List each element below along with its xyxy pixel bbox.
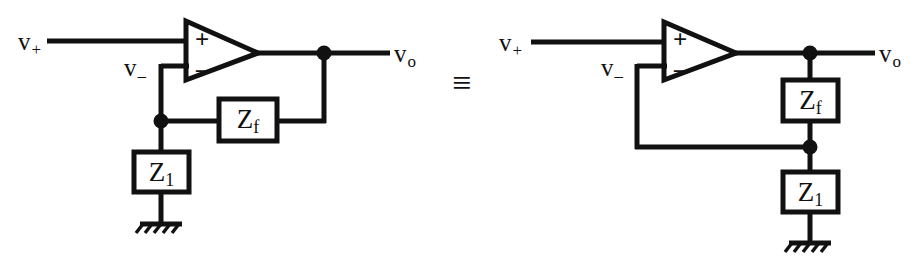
- right-z1-subscript: 1: [814, 190, 823, 210]
- left-output-label: vo: [394, 41, 415, 66]
- right-inverting-input-label: v–: [601, 55, 622, 80]
- left-zf-subscript: f: [253, 117, 259, 137]
- right-minus-glyph: –: [674, 55, 687, 82]
- right-vminus-symbol: v: [601, 54, 614, 81]
- right-ground-symbol: [785, 243, 831, 252]
- circuit-figure: v+ v– vo + – Zf Z1 ≡ v+ v– vo + – Zf Z1: [0, 0, 924, 266]
- left-noninverting-input-label: v+: [18, 29, 40, 54]
- right-z1-label: Z1: [783, 179, 838, 206]
- right-vminus-subscript: –: [615, 66, 624, 85]
- left-ground-symbol: [136, 224, 182, 233]
- right-z1-symbol: Z: [798, 177, 815, 207]
- right-circuit-group: [531, 22, 875, 252]
- left-z1-subscript: 1: [165, 170, 174, 190]
- right-noninverting-input-label: v+: [499, 30, 521, 55]
- right-vplus-subscript: +: [513, 41, 523, 60]
- left-opamp-minus-pin-label: –: [196, 56, 209, 81]
- left-vplus-subscript: +: [32, 40, 42, 59]
- left-output-node-dot: [317, 46, 332, 61]
- left-vminus-symbol: v: [124, 54, 137, 81]
- right-zf-subscript: f: [816, 98, 822, 118]
- right-vo-subscript: o: [893, 52, 902, 71]
- right-opamp-minus-pin-label: –: [674, 56, 687, 81]
- left-vplus-symbol: v: [18, 28, 31, 55]
- right-vo-symbol: v: [879, 40, 892, 67]
- left-zf-label: Zf: [219, 106, 277, 133]
- left-minus-glyph: –: [196, 55, 209, 82]
- left-opamp-plus-pin-label: +: [195, 27, 209, 52]
- right-vplus-symbol: v: [499, 29, 512, 56]
- right-zf-label: Zf: [783, 87, 838, 114]
- right-zf-symbol: Z: [799, 85, 816, 115]
- right-output-label: vo: [879, 41, 900, 66]
- left-z1-label: Z1: [134, 159, 189, 186]
- left-zf-symbol: Z: [237, 104, 254, 134]
- left-plus-glyph: +: [195, 26, 209, 53]
- right-opamp-plus-pin-label: +: [673, 27, 687, 52]
- left-vo-subscript: o: [408, 52, 417, 71]
- left-inverting-input-label: v–: [124, 55, 145, 80]
- right-plus-glyph: +: [673, 26, 687, 53]
- left-vo-symbol: v: [394, 40, 407, 67]
- left-z1-symbol: Z: [149, 157, 166, 187]
- left-vminus-subscript: –: [138, 66, 147, 85]
- equivalence-symbol: ≡: [452, 66, 471, 100]
- circuit-svg: [0, 0, 924, 266]
